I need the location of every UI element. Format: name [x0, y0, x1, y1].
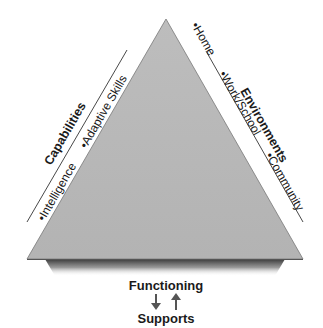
arrow-up-icon	[171, 293, 181, 310]
supports-label: Supports	[137, 311, 194, 326]
functioning-label: Functioning	[129, 278, 203, 293]
right-item-home: •Home	[188, 20, 218, 59]
triangle-shadow	[45, 259, 285, 276]
triangle-diagram: •Intelligence •Adaptive Skills Capabilit…	[0, 0, 323, 328]
arrow-down-icon	[151, 294, 161, 310]
